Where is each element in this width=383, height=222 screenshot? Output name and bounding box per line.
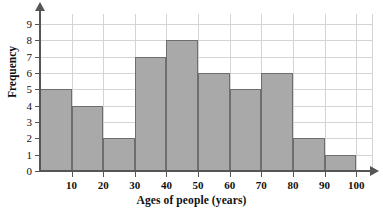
histogram-bar xyxy=(166,40,198,171)
y-tick-mark xyxy=(35,122,40,123)
x-tick-label: 10 xyxy=(57,180,87,191)
x-tick-mark xyxy=(103,171,104,177)
y-tick-label: 1 xyxy=(14,150,32,161)
histogram-bar xyxy=(261,73,293,171)
y-tick-mark xyxy=(35,57,40,58)
x-tick-label: 50 xyxy=(183,180,213,191)
histogram-bar xyxy=(198,73,230,171)
x-tick-label: 90 xyxy=(310,180,340,191)
x-tick-label: 80 xyxy=(278,180,308,191)
x-tick-mark xyxy=(166,171,167,177)
y-tick-mark xyxy=(35,138,40,139)
histogram-bar xyxy=(293,138,325,171)
histogram-figure: 0123456789 102030405060708090100 Frequen… xyxy=(0,0,383,222)
y-tick-label: 2 xyxy=(14,133,32,144)
x-tick-mark xyxy=(72,171,73,177)
x-tick-label: 30 xyxy=(120,180,150,191)
histogram-bar xyxy=(135,57,167,171)
histogram-bar xyxy=(325,155,357,171)
x-tick-mark xyxy=(135,171,136,177)
y-axis-title: Frequency xyxy=(6,24,18,120)
x-tick-mark xyxy=(198,171,199,177)
x-tick-label: 40 xyxy=(151,180,181,191)
gridline-vertical xyxy=(372,14,373,171)
histogram-bar xyxy=(230,89,262,171)
y-tick-mark xyxy=(35,24,40,25)
x-tick-label: 60 xyxy=(215,180,245,191)
x-tick-mark xyxy=(230,171,231,177)
histogram-bar xyxy=(72,106,104,171)
y-axis-arrow-icon xyxy=(35,2,45,11)
y-tick-mark xyxy=(35,155,40,156)
x-tick-mark xyxy=(325,171,326,177)
x-tick-label: 20 xyxy=(88,180,118,191)
x-tick-label: 100 xyxy=(341,180,371,191)
y-tick-mark xyxy=(35,89,40,90)
x-tick-mark xyxy=(293,171,294,177)
bars-group xyxy=(40,14,372,171)
histogram-bar xyxy=(103,138,135,171)
y-tick-mark xyxy=(35,40,40,41)
y-tick-label: 0 xyxy=(14,166,32,177)
x-axis-title: Ages of people (years) xyxy=(0,194,383,206)
histogram-bar xyxy=(40,89,72,171)
y-tick-mark xyxy=(35,73,40,74)
y-tick-mark xyxy=(35,106,40,107)
x-tick-mark xyxy=(356,171,357,177)
x-tick-label: 70 xyxy=(246,180,276,191)
x-tick-mark xyxy=(261,171,262,177)
